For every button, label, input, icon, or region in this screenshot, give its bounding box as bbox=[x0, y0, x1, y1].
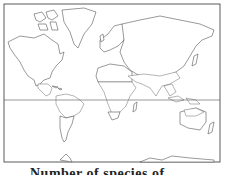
region-northern-south-america bbox=[56, 94, 84, 118]
landmass-caribbean bbox=[52, 86, 62, 90]
landmass-arctic-islands bbox=[34, 10, 58, 30]
map-caption: Number of species of ... bbox=[30, 166, 181, 175]
landmass-japan bbox=[192, 54, 198, 66]
region-central-africa bbox=[98, 82, 136, 114]
landmass-north-america bbox=[8, 34, 64, 86]
landmass-greenland bbox=[62, 8, 96, 48]
landmass-south-america bbox=[60, 116, 74, 142]
landmass-southern-africa bbox=[108, 112, 120, 120]
landmass-asia bbox=[120, 16, 214, 78]
landmass-antarctica bbox=[60, 154, 214, 162]
landmass-madagascar bbox=[133, 102, 137, 112]
world-map bbox=[0, 0, 225, 175]
landmass-north-africa bbox=[96, 64, 132, 82]
region-mexico-central-america bbox=[38, 84, 52, 96]
landmass-new-zealand bbox=[208, 122, 214, 134]
region-southeast-asia bbox=[164, 84, 200, 104]
